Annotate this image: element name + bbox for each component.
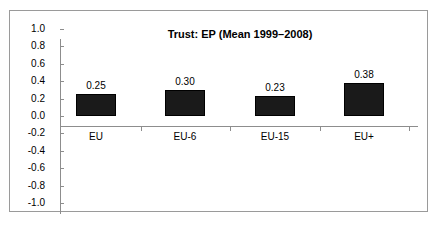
y-tick-label: 0.2 (3, 94, 45, 104)
x-category-label: EU+ (324, 131, 404, 142)
y-tick-label: -0.6 (3, 163, 45, 173)
figure: Trust: EP (Mean 1999–2008) 1.00.80.60.40… (0, 0, 440, 226)
chart-frame: Trust: EP (Mean 1999–2008) 1.00.80.60.40… (9, 10, 428, 212)
bar (255, 96, 295, 116)
y-tick-mark (60, 64, 64, 65)
y-tick-label: 0.8 (3, 41, 45, 51)
y-tick-label: 0.4 (3, 76, 45, 86)
y-tick-label: -0.8 (3, 181, 45, 191)
y-tick-label: 1.0 (3, 24, 45, 34)
y-tick-label: -1.0 (3, 198, 45, 208)
y-tick-label: -0.2 (3, 128, 45, 138)
x-category-label: EU-6 (145, 131, 225, 142)
y-tick-mark (60, 116, 64, 117)
y-tick-label: 0.0 (3, 111, 45, 121)
bar-value-label: 0.25 (66, 81, 126, 91)
y-tick-mark (60, 203, 64, 204)
x-axis-line (60, 126, 418, 127)
x-tick-mark (409, 127, 410, 131)
bar-value-label: 0.23 (245, 83, 305, 93)
y-tick-mark (60, 186, 64, 187)
chart-title: Trust: EP (Mean 1999–2008) (50, 28, 430, 40)
y-tick-mark (60, 46, 64, 47)
y-tick-mark (60, 99, 64, 100)
bar (76, 94, 116, 116)
bar (344, 83, 384, 116)
bar-value-label: 0.38 (334, 70, 394, 80)
x-tick-mark (320, 127, 321, 131)
bar-value-label: 0.30 (155, 77, 215, 87)
y-tick-label: -0.4 (3, 146, 45, 156)
y-tick-mark (60, 29, 64, 30)
x-tick-mark (230, 127, 231, 131)
y-tick-mark (60, 168, 64, 169)
y-tick-label: 0.6 (3, 59, 45, 69)
x-category-label: EU (56, 131, 136, 142)
y-tick-mark (60, 81, 64, 82)
bar (165, 90, 205, 116)
x-category-label: EU-15 (235, 131, 315, 142)
y-tick-mark (60, 151, 64, 152)
x-tick-mark (141, 127, 142, 131)
